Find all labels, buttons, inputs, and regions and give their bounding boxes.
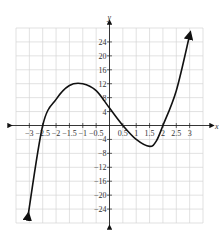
y-tick-label: −16 bbox=[94, 177, 107, 186]
x-axis-label: x bbox=[214, 122, 219, 131]
x-tick-label: −2.5 bbox=[35, 129, 50, 138]
x-tick-label: −3 bbox=[25, 129, 34, 138]
y-tick-label: −8 bbox=[98, 149, 107, 158]
y-tick-label: 24 bbox=[99, 38, 107, 47]
y-tick-label: 20 bbox=[99, 52, 107, 61]
function-graph: −3−2.5−2−1.5−1−0.50.511.522.532420161284… bbox=[0, 0, 223, 230]
y-tick-label: 12 bbox=[99, 80, 107, 89]
x-tick-label: 1.5 bbox=[145, 129, 155, 138]
x-tick-label: 1 bbox=[134, 129, 138, 138]
y-tick-label: 16 bbox=[99, 66, 107, 75]
tick-labels: −3−2.5−2−1.5−1−0.50.511.522.532420161284… bbox=[25, 38, 192, 214]
y-tick-label: 4 bbox=[103, 108, 107, 117]
y-tick-label: −20 bbox=[94, 191, 107, 200]
axes bbox=[10, 22, 212, 227]
y-tick-label: −12 bbox=[94, 163, 107, 172]
x-tick-label: 3 bbox=[188, 129, 192, 138]
x-tick-label: −2 bbox=[52, 129, 61, 138]
x-tick-label: −1.5 bbox=[62, 129, 77, 138]
x-tick-label: −1 bbox=[79, 129, 88, 138]
y-axis-label: y bbox=[107, 13, 112, 22]
x-tick-label: 2.5 bbox=[171, 129, 181, 138]
y-tick-label: −4 bbox=[98, 135, 107, 144]
y-tick-label: −24 bbox=[94, 205, 107, 214]
